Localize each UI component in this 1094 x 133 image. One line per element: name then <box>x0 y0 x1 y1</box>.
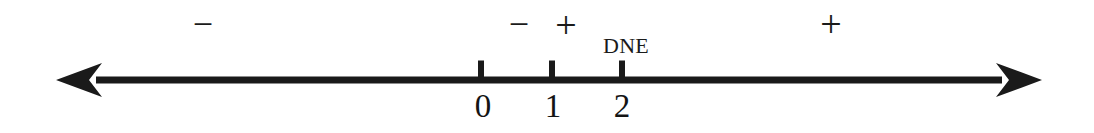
tick-label-two: 2 <box>614 90 631 123</box>
dne-annotation-label: DNE <box>603 35 649 57</box>
sign-marker-right-of-two: + <box>820 5 841 43</box>
sign-marker-between-one-and-two: + <box>555 6 576 44</box>
tick-marks-group <box>478 61 625 81</box>
tick-mark-1 <box>549 61 555 81</box>
tick-label-zero: 0 <box>475 90 492 123</box>
axis-shaft <box>96 77 1002 84</box>
tick-mark-2 <box>619 61 625 81</box>
axis-arrowhead-left <box>56 63 102 97</box>
sign-marker-between-zero-and-one: − <box>509 6 529 42</box>
tick-label-one: 1 <box>545 90 562 123</box>
sign-marker-left-of-zero: − <box>193 6 213 42</box>
tick-mark-0 <box>478 61 484 81</box>
number-line-diagram: − − + + DNE 0 1 2 <box>0 0 1094 133</box>
axis-arrowhead-right <box>996 63 1042 97</box>
